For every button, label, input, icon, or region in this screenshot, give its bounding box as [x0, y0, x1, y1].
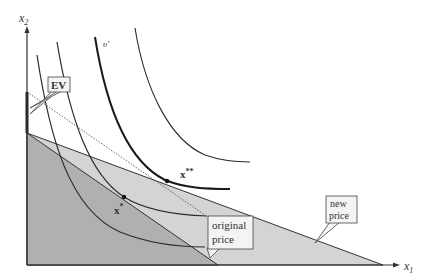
svg-text:price: price — [329, 210, 350, 221]
x-double-star-label: x** — [180, 167, 194, 180]
indifference-curve-outer — [135, 28, 250, 162]
y-axis-label: x2 — [18, 11, 28, 27]
svg-text:EV: EV — [51, 79, 66, 91]
svg-text:price: price — [212, 233, 234, 245]
x-axis-arrow — [393, 263, 400, 268]
y-axis-arrow — [25, 26, 30, 33]
new-price-callout: new price — [315, 196, 357, 243]
svg-text:original: original — [212, 219, 246, 231]
x-star-point — [122, 195, 126, 199]
svg-text:new: new — [330, 198, 347, 209]
x-double-star-point — [165, 179, 169, 183]
ev-diagram: x2 x1 υ′ x* x** EV original price new pr… — [0, 0, 432, 279]
u-prime-label: υ′ — [103, 39, 110, 49]
ev-callout: EV — [30, 77, 70, 114]
x-axis-label: x1 — [403, 259, 413, 275]
